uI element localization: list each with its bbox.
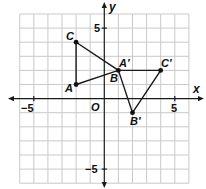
y-axis-label: y — [108, 0, 117, 14]
tick-label-y-neg5: −5 — [85, 163, 98, 175]
y-axis — [102, 2, 107, 188]
label-c-prime: C′ — [161, 57, 173, 69]
tick-label-x-pos5: 5 — [171, 102, 177, 114]
coordinate-plane: x y O −5 5 5 −5 A C B A′ C′ B′ — [0, 0, 206, 189]
label-b: B — [110, 72, 118, 84]
x-axis-label: x — [192, 82, 201, 96]
point-c — [74, 40, 79, 45]
y-axis-down-arrow-icon — [102, 182, 107, 188]
triangle-a-prime-b-prime-c-prime — [118, 70, 160, 112]
y-axis-up-arrow-icon — [102, 2, 107, 8]
label-b-prime: B′ — [130, 115, 142, 127]
tick-label-y-pos5: 5 — [94, 22, 100, 34]
label-a-prime: A′ — [118, 57, 131, 69]
label-c: C — [66, 30, 75, 42]
tick-label-x-neg5: −5 — [21, 102, 34, 114]
x-axis-left-arrow-icon — [8, 96, 14, 101]
origin-label: O — [91, 101, 100, 113]
x-axis-right-arrow-icon — [198, 96, 204, 101]
point-a — [74, 82, 79, 87]
label-a: A — [64, 82, 73, 94]
